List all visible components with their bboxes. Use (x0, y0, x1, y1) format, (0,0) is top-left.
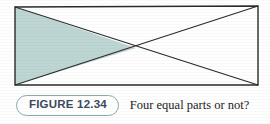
figure-caption-row: FIGURE 12.34 Four equal parts or not? (0, 88, 270, 122)
geometry-diagram (0, 0, 270, 92)
figure-number-label: FIGURE 12.34 (29, 99, 107, 111)
figure-number-badge: FIGURE 12.34 (16, 95, 119, 116)
shaded-left-triangle (15, 7, 136, 85)
figure-container: FIGURE 12.34 Four equal parts or not? (0, 0, 270, 124)
figure-caption-text: Four equal parts or not? (130, 99, 249, 112)
